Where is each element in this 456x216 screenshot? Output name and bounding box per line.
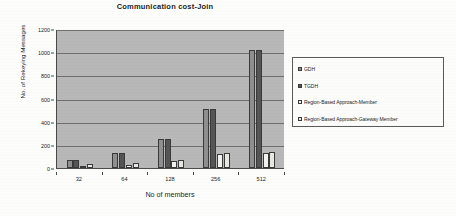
legend-label: Region-Based Approach-Member: [304, 99, 377, 105]
x-tick-mark: [284, 172, 285, 175]
x-tick-label-256: 256: [211, 176, 220, 182]
legend-label: GDH: [304, 66, 315, 72]
bar-64-series-1: [119, 153, 125, 168]
bar-128-series-2: [171, 161, 177, 168]
x-tick-mark: [193, 172, 194, 175]
legend-swatch-icon: [298, 100, 302, 104]
x-tick-label-64: 64: [121, 176, 127, 182]
bar-32-series-1: [73, 160, 79, 168]
x-tick-mark: [102, 172, 103, 175]
x-tick-label-32: 32: [76, 176, 82, 182]
x-tick-mark: [56, 172, 57, 175]
y-tick-label: 0: [47, 166, 50, 172]
bar-256-series-2: [217, 154, 223, 168]
x-tick-label-512: 512: [257, 176, 266, 182]
x-axis-title: No of members: [56, 190, 284, 199]
y-tick-label: 600: [41, 97, 50, 103]
legend-swatch-icon: [298, 117, 302, 121]
legend-item-0[interactable]: GDH: [298, 66, 315, 72]
y-tick-label: 800: [41, 73, 50, 79]
bar-32-series-3: [87, 164, 93, 168]
legend-label: TGDH: [304, 83, 318, 89]
legend-item-1[interactable]: TGDH: [298, 83, 318, 89]
bar-512-series-1: [256, 50, 262, 168]
y-tick-mark: [51, 169, 54, 170]
y-tick-mark: [51, 53, 54, 54]
x-tick-mark: [147, 172, 148, 175]
bar-256-series-3: [224, 153, 230, 168]
y-tick-label: 1200: [38, 27, 50, 33]
x-axis-ticks: 3264128256512: [56, 172, 284, 184]
legend-item-2[interactable]: Region-Based Approach-Member: [298, 99, 377, 105]
bar-256-series-0: [203, 109, 209, 168]
legend-swatch-icon: [298, 84, 302, 88]
bar-64-series-3: [133, 163, 139, 168]
y-tick-mark: [51, 99, 54, 100]
chart-legend: GDHTGDHRegion-Based Approach-MemberRegio…: [292, 57, 444, 127]
x-tick-mark: [238, 172, 239, 175]
y-tick-label: 400: [41, 120, 50, 126]
y-tick-mark: [51, 30, 54, 31]
y-tick-label: 1000: [38, 50, 50, 56]
bar-128-series-0: [158, 139, 164, 168]
bar-64-series-2: [126, 165, 132, 168]
bar-128-series-1: [165, 139, 171, 168]
bar-64-series-0: [112, 153, 118, 168]
y-tick-label: 200: [41, 143, 50, 149]
legend-swatch-icon: [298, 67, 302, 71]
bar-512-series-3: [269, 152, 275, 168]
bar-series-layer: [57, 30, 284, 168]
bar-32-series-0: [67, 160, 73, 168]
bar-32-series-2: [80, 166, 86, 168]
plot-area: [56, 30, 284, 169]
bar-512-series-2: [263, 153, 269, 168]
bar-128-series-3: [178, 160, 184, 168]
legend-item-3[interactable]: Region-Based Approach-Gateway Member: [298, 116, 398, 122]
y-tick-mark: [51, 145, 54, 146]
bar-512-series-0: [249, 50, 255, 168]
y-axis-ticks: 020040060080010001200: [24, 30, 54, 169]
x-tick-label-128: 128: [165, 176, 174, 182]
y-tick-mark: [51, 76, 54, 77]
chart-title: Communication cost-Join: [0, 2, 330, 11]
bar-256-series-1: [210, 109, 216, 168]
legend-label: Region-Based Approach-Gateway Member: [304, 116, 398, 122]
y-tick-mark: [51, 122, 54, 123]
